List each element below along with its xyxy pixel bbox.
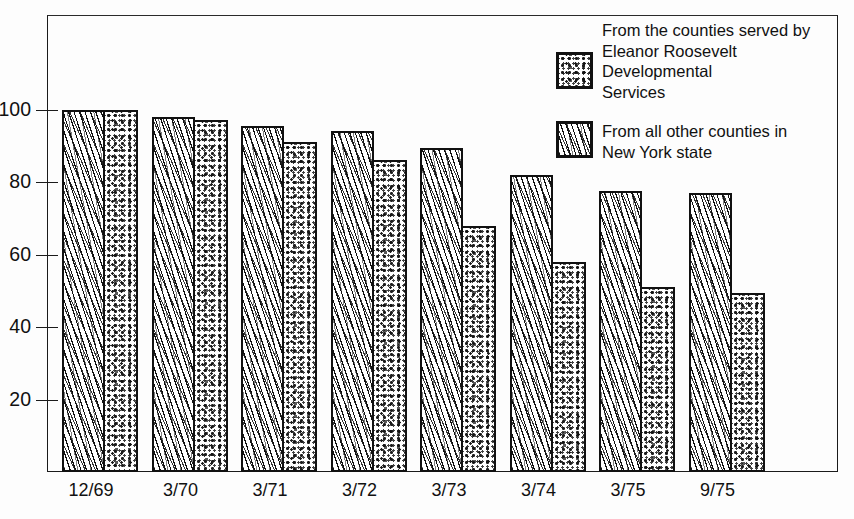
bar-erds-12/69 [103,110,138,473]
legend-label-erds: From the counties served by Eleanor Roos… [602,20,842,102]
y-tick-60 [36,255,58,256]
x-tick-label-3/71: 3/71 [227,481,313,499]
x-tick-label-9/75: 9/75 [675,481,761,499]
bar-other-counties-3/71 [241,126,284,472]
x-tick-label-3/73: 3/73 [406,481,492,499]
bar-erds-3/72 [372,160,407,472]
x-tick-label-3/74: 3/74 [496,481,582,499]
bar-other-counties-9/75 [689,193,732,472]
y-tick-20 [36,400,58,401]
y-tick-label-100: 100 [0,100,31,120]
y-tick-80 [36,182,58,183]
y-tick-100 [36,110,58,111]
bar-erds-3/73 [461,226,496,473]
bar-other-counties-3/73 [420,148,463,472]
bar-erds-3/71 [282,142,317,472]
x-tick-label-3/70: 3/70 [138,481,224,499]
bar-other-counties-3/70 [152,117,195,472]
bar-other-counties-3/72 [331,131,374,472]
x-tick-label-3/72: 3/72 [317,481,403,499]
x-tick-label-3/75: 3/75 [585,481,671,499]
bar-other-counties-12/69 [62,110,105,473]
bar-erds-3/74 [551,262,586,472]
y-tick-40 [36,327,58,328]
bar-erds-3/75 [640,287,675,472]
legend-swatch-erds [556,52,593,89]
bar-erds-9/75 [730,293,765,472]
chart-canvas: 20406080100 12/693/703/713/723/733/743/7… [0,0,854,519]
bar-other-counties-3/75 [599,191,642,472]
y-tick-label-80: 80 [0,172,31,192]
chart-legend: From the counties served by Eleanor Roos… [556,8,846,158]
x-tick-label-12/69: 12/69 [48,481,134,499]
y-tick-label-40: 40 [0,317,31,337]
y-tick-label-20: 20 [0,390,31,410]
bar-other-counties-3/74 [510,175,553,472]
legend-swatch-other-counties [556,121,593,158]
y-tick-label-60: 60 [0,245,31,265]
bar-erds-3/70 [193,120,228,472]
legend-label-other-counties: From all other counties in New York stat… [602,121,842,162]
